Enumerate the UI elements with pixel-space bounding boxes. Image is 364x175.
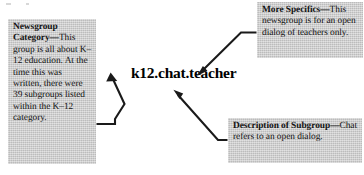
- arrow-description-to-name-head: [173, 90, 183, 99]
- callout-more-specifics: More Specifics—This newsgroup is for an …: [257, 2, 363, 58]
- callout-description-subgroup: Description of Subgroup—Chat refers to a…: [228, 118, 362, 163]
- arrow-category-to-name: [97, 73, 125, 125]
- callout-more-specifics-dash: —: [320, 5, 329, 15]
- figure-newsgroup-name-anatomy: Newsgroup Category—This group is all abo…: [0, 0, 364, 175]
- arrow-description-to-name-line: [178, 95, 228, 140]
- callout-newsgroup-category-dash: —: [50, 33, 59, 43]
- callout-newsgroup-category-body: This group is all about K–12 education. …: [13, 33, 91, 123]
- arrow-description-to-name: [173, 90, 227, 140]
- arrow-category-to-name-head: [106, 73, 117, 82]
- newsgroup-name-label: k12.chat.teacher: [131, 64, 236, 82]
- callout-more-specifics-heading: More Specifics: [262, 5, 320, 15]
- scan-speckle: [6, 3, 11, 5]
- arrow-category-to-name-line: [97, 77, 125, 124]
- callout-description-subgroup-heading: Description of Subgroup: [233, 121, 330, 131]
- scan-speckle: [26, 3, 29, 5]
- callout-newsgroup-category: Newsgroup Category—This group is all abo…: [8, 19, 96, 164]
